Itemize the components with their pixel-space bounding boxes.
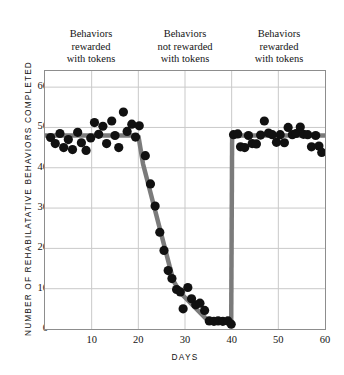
phase-caption-2-line-1: Behaviors [164,28,207,41]
x-tick-label-30: 30 [170,334,200,345]
phase-caption-3-line-1: Behaviors [258,28,301,41]
figure-container: Behaviors rewarded with tokens Behaviors… [0,0,344,375]
data-point [256,131,265,140]
phase-caption-2-line-3: with tokens [161,53,210,66]
data-point [131,133,140,142]
data-point [81,146,90,155]
data-point [227,320,236,329]
data-point [252,139,261,148]
data-point [107,116,116,125]
data-point [98,122,107,131]
phase-caption-1-line-2: rewarded [71,41,110,54]
data-point [233,129,242,138]
data-point [51,139,60,148]
data-point [146,179,155,188]
data-point [159,246,168,255]
scatter-plot-svg [45,71,325,329]
data-point [179,304,188,313]
data-point [276,130,285,139]
data-point [110,131,119,140]
data-point [55,129,64,138]
data-point [167,274,176,283]
data-point [200,306,209,315]
data-point [77,138,86,147]
phase-caption-1-line-3: with tokens [67,53,116,66]
data-point [183,283,192,292]
phase-captions: Behaviors rewarded with tokens Behaviors… [44,4,326,66]
phase-caption-2-line-2: not rewarded [157,41,212,54]
x-tick-label-10: 10 [77,334,107,345]
phase-caption-1-line-1: Behaviors [70,28,113,41]
phase-caption-3: Behaviors rewarded with tokens [232,4,326,66]
data-point [303,130,312,139]
data-point [73,128,82,137]
data-point [260,116,269,125]
data-point [135,121,144,130]
phase-caption-3-line-2: rewarded [259,41,298,54]
x-tick-label-50: 50 [263,334,293,345]
phase-caption-2: Behaviors not rewarded with tokens [138,4,232,66]
plot-area [44,70,326,330]
data-point [102,139,111,148]
x-tick-label-40: 40 [217,334,247,345]
data-point [311,131,320,140]
data-point [114,143,123,152]
phase-caption-1: Behaviors rewarded with tokens [44,4,138,66]
phase-caption-3-line-3: with tokens [255,53,304,66]
trend-segment-reinstatement-jump [231,136,232,323]
data-point [94,130,103,139]
x-axis-title: DAYS [44,352,326,362]
data-point [64,135,73,144]
data-point [86,133,95,142]
x-tick-label-60: 60 [310,334,340,345]
data-point [280,138,289,147]
data-point [141,151,150,160]
data-point [59,143,68,152]
data-point [151,201,160,210]
data-point [164,266,173,275]
data-point [244,131,253,140]
x-tick-label-20: 20 [123,334,153,345]
data-point [119,108,128,117]
data-point [90,118,99,127]
data-point [68,145,77,154]
data-point [155,228,164,237]
